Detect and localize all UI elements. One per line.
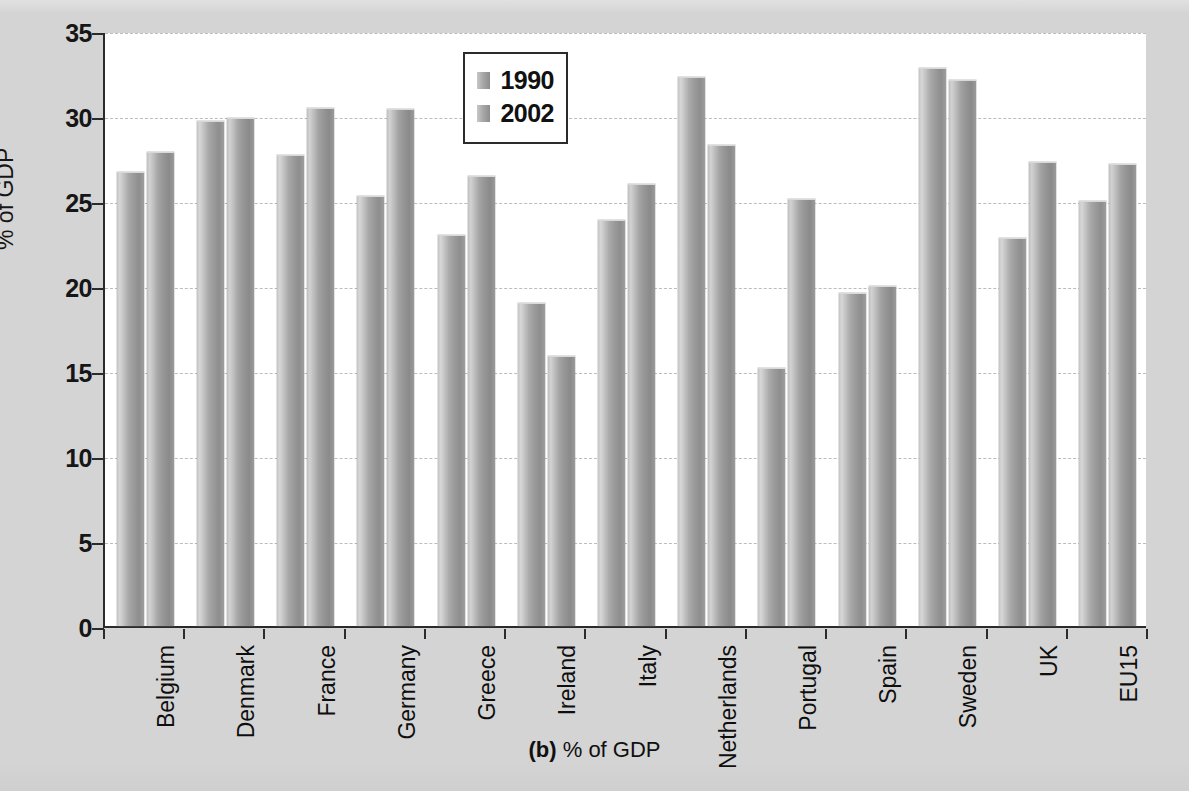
bar — [548, 356, 575, 626]
caption-text: % of GDP — [563, 737, 661, 762]
legend-item-label: 2002 — [500, 99, 554, 128]
legend-swatch-icon — [477, 105, 490, 122]
bar — [628, 184, 655, 626]
bar — [468, 176, 495, 627]
bar — [678, 77, 705, 626]
x-axis-tick-mark — [745, 629, 747, 639]
x-axis-tick-mark — [424, 629, 426, 639]
bar — [518, 303, 545, 626]
x-axis-tick-label: UK — [1036, 645, 1063, 677]
y-axis-label: % of GDP — [0, 148, 19, 250]
bar — [197, 121, 224, 626]
bar-group — [346, 33, 426, 626]
bar-group — [105, 33, 185, 626]
y-axis-tick-label: 30 — [32, 104, 92, 133]
bar — [1079, 201, 1106, 626]
x-axis-tick-label: France — [314, 645, 341, 717]
bar — [387, 109, 414, 626]
y-axis-tick-label: 15 — [32, 359, 92, 388]
caption-prefix: (b) — [528, 737, 556, 762]
x-axis-tick-mark — [103, 629, 105, 639]
x-axis-tick-label: Italy — [635, 645, 662, 687]
bar-group — [586, 33, 666, 626]
bar-group — [667, 33, 747, 626]
x-axis-tick-mark — [905, 629, 907, 639]
figure-page: % of GDP 05101520253035 BelgiumDenmarkFr… — [0, 0, 1189, 791]
y-axis-tick-label: 25 — [32, 189, 92, 218]
bar — [949, 80, 976, 626]
x-axis-tick-label: Portugal — [795, 645, 822, 731]
bar — [708, 145, 735, 626]
legend: 1990 2002 — [463, 52, 568, 144]
x-axis-tick-mark — [504, 629, 506, 639]
y-axis-tick-label: 20 — [32, 274, 92, 303]
bar — [758, 368, 785, 626]
x-axis-tick-mark — [344, 629, 346, 639]
bar — [869, 286, 896, 626]
x-axis-tick-mark — [1066, 629, 1068, 639]
bar — [1109, 164, 1136, 626]
x-axis-tick-label: Belgium — [153, 645, 180, 728]
x-axis-tick-mark — [665, 629, 667, 639]
y-axis-tick-label: 0 — [32, 614, 92, 643]
bar — [147, 152, 174, 626]
bar-group — [827, 33, 907, 626]
bar — [1029, 162, 1056, 626]
x-axis-tick-mark — [584, 629, 586, 639]
y-axis-tick-label: 10 — [32, 444, 92, 473]
bar — [919, 68, 946, 626]
figure-caption: (b) % of GDP — [0, 737, 1189, 763]
bar-group — [1068, 33, 1148, 626]
legend-item-label: 1990 — [500, 66, 554, 95]
plot-area — [103, 33, 1146, 628]
x-axis-tick-label: Germany — [394, 645, 421, 740]
bar — [438, 235, 465, 626]
y-axis-tick-label: 5 — [32, 529, 92, 558]
bar-group — [907, 33, 987, 626]
x-axis-tick-mark — [1146, 629, 1148, 639]
bar — [788, 199, 815, 626]
x-axis-tick-mark — [986, 629, 988, 639]
legend-swatch-icon — [477, 72, 490, 89]
x-axis-tick-label: Ireland — [554, 645, 581, 715]
x-axis-tick-mark — [263, 629, 265, 639]
bar-group — [747, 33, 827, 626]
bar — [999, 238, 1026, 626]
x-axis-tick-mark — [183, 629, 185, 639]
bar — [117, 172, 144, 626]
bar — [307, 108, 334, 627]
bar-group — [185, 33, 265, 626]
legend-item: 2002 — [477, 97, 554, 130]
bar — [277, 155, 304, 626]
bar — [227, 118, 254, 626]
x-axis-tick-label: Sweden — [955, 645, 982, 728]
x-axis-tick-label: Denmark — [233, 645, 260, 738]
x-axis-tick-label: EU15 — [1116, 645, 1143, 703]
bar-group — [988, 33, 1068, 626]
bar-series-container — [105, 33, 1146, 626]
x-axis-tick-label: Greece — [474, 645, 501, 720]
x-axis-tick-mark — [825, 629, 827, 639]
y-axis-tick-label: 35 — [32, 19, 92, 48]
bar-group — [265, 33, 345, 626]
bar — [839, 293, 866, 626]
bar — [357, 196, 384, 626]
legend-item: 1990 — [477, 64, 554, 97]
bar — [598, 220, 625, 626]
x-axis-tick-label: Spain — [875, 645, 902, 704]
